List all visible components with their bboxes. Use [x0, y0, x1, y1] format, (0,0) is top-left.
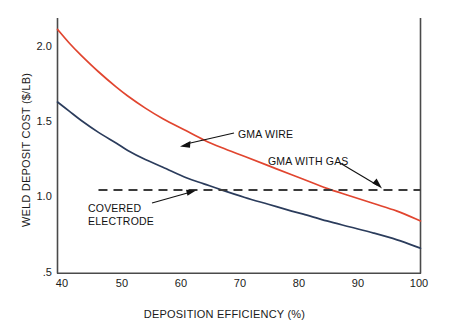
annotation-label-covered-electrode-line2: ELECTRODE	[88, 215, 154, 228]
series-line-gma-wire	[58, 29, 421, 221]
y-axis-title: WELD DEPOSIT COST ($/LB)	[20, 40, 32, 260]
x-tick-label-100: 100	[410, 277, 429, 289]
annotation-leader-covered-electrode	[152, 190, 196, 203]
x-tick-label-70: 70	[234, 277, 246, 289]
x-tick-label-50: 50	[116, 277, 128, 289]
x-tick-label-40: 40	[56, 277, 68, 289]
y-tick-label-0-5: .5	[14, 266, 52, 278]
x-tick-label-80: 80	[293, 277, 305, 289]
annotation-leader-gma-wire	[180, 133, 234, 148]
annotation-label-gma-with-gas: GMA WITH GAS	[268, 155, 349, 168]
x-tick-label-60: 60	[175, 277, 187, 289]
annotation-label-covered-electrode: COVERED ELECTRODE	[88, 202, 154, 227]
x-axis-title: DEPOSITION EFFICIENCY (%)	[0, 308, 449, 320]
x-tick-label-90: 90	[352, 277, 364, 289]
weld-deposit-cost-chart: 40 50 60 70 80 90 100 2.0 1.5 1.0 .5 DEP…	[0, 0, 449, 331]
annotation-label-covered-electrode-line1: COVERED	[88, 202, 154, 215]
annotation-label-gma-wire: GMA WIRE	[238, 128, 293, 141]
